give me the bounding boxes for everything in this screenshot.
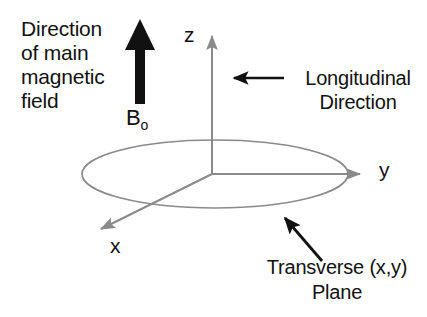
main-field-caption: Direction of main magnetic field [21, 17, 105, 113]
longitudinal-direction-caption: Longitudinal Direction [292, 66, 424, 114]
figure-canvas: Direction of main magnetic field Bo z y … [0, 0, 427, 317]
b0-field-arrow [125, 19, 155, 104]
axis-label-z: z [184, 24, 194, 45]
b0-symbol: B [126, 105, 140, 130]
b0-label: Bo [126, 107, 148, 132]
axis-label-y: y [379, 159, 389, 180]
b0-subscript: o [140, 117, 148, 133]
axis-label-x: x [110, 235, 120, 256]
transverse-plane-caption: Transverse (x,y) Plane [249, 255, 425, 305]
x-axis-line [101, 174, 212, 229]
